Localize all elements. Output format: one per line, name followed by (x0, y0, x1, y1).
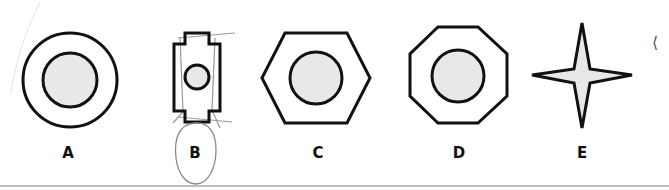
label-b: B (189, 144, 200, 162)
shape-a-inner-circle (43, 53, 97, 107)
shape-a: A (23, 33, 117, 162)
shape-d-inner-circle (432, 50, 484, 102)
shape-e: E (532, 23, 632, 162)
label-d: D (453, 144, 465, 162)
label-a: A (62, 144, 74, 162)
shape-e-four-pointed-star (532, 23, 632, 128)
label-e: E (577, 144, 587, 162)
label-c: C (312, 144, 323, 162)
shape-b-inner-circle (185, 65, 209, 89)
shapes-diagram: A B C D E (0, 0, 669, 190)
edge-mark: ⟨ (652, 33, 658, 52)
shape-c-inner-circle (290, 52, 342, 104)
shape-d: D (410, 27, 507, 162)
shape-b: B (173, 33, 235, 184)
shape-c: C (262, 33, 370, 162)
